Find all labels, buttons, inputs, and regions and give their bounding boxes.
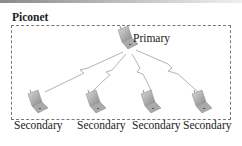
- secondary-laptop-icon-1: [28, 90, 48, 113]
- secondary-label-4: Secondary: [183, 119, 232, 131]
- secondary-laptop-icon-3: [141, 90, 161, 113]
- primary-label: Primary: [133, 32, 170, 44]
- secondary-label-3: Secondary: [132, 119, 181, 131]
- secondary-label-1: Secondary: [14, 119, 63, 131]
- wireless-links: [45, 50, 198, 92]
- secondary-laptop-icon-4: [192, 90, 212, 113]
- secondary-laptop-icon-2: [86, 90, 106, 113]
- secondary-label-2: Secondary: [77, 119, 126, 131]
